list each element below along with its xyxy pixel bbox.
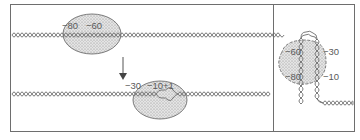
label-plus-1: +1 [163, 80, 174, 91]
label-right-minus-10: −10 [323, 71, 339, 82]
label-right-minus-80: −80 [285, 71, 301, 82]
label-right-minus-30: −30 [323, 46, 339, 57]
label-right-minus-60: −60 [285, 46, 301, 57]
closed-complex: −80 −60 [12, 14, 284, 54]
dna-helix-top [12, 33, 284, 37]
down-arrow [119, 57, 127, 80]
label-minus-80: −80 [62, 20, 78, 31]
promoter-diagram: −80 −60 −30 −10 +1 [0, 0, 360, 140]
open-complex: −30 −10 +1 [12, 80, 270, 119]
wrapped-dna-complex: −60 −80 −30 −10 [279, 31, 353, 105]
label-minus-60: −60 [86, 20, 102, 31]
label-minus-10: −10 [147, 80, 163, 91]
label-minus-30: −30 [125, 80, 141, 91]
